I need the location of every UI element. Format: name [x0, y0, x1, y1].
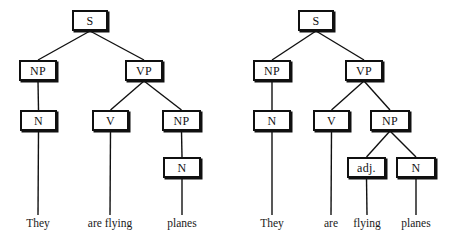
tree-edge-NP2-N2 [182, 131, 183, 157]
tree-edge-VP-V [332, 81, 365, 110]
tree-node-NP-NP2: NP [370, 110, 410, 131]
tree-edge-NP2-ADJ [367, 131, 391, 157]
tree-edge-S-NP1 [272, 31, 316, 60]
tree-edge-V-w-are [331, 131, 332, 215]
tree-node-VP-VP: VP [125, 60, 163, 81]
tree-edge-S-VP [316, 31, 364, 60]
tree-node-label: NP [382, 114, 398, 126]
tree-node-label: N [268, 114, 277, 126]
tree-node-N-N2: N [396, 157, 436, 178]
tree-node-label: NP [30, 64, 46, 76]
tree-node-V-V: V [313, 110, 350, 131]
tree-node-S-S: S [298, 10, 334, 31]
tree-node-NP-NP1: NP [253, 60, 291, 81]
tree-edge-S-NP1 [38, 31, 90, 60]
tree-node-label: adj. [357, 161, 376, 173]
tree-node-label: V [327, 114, 336, 126]
tree-node-VP-VP: VP [345, 60, 383, 81]
tree-edge-NP1-N1 [38, 81, 39, 110]
tree-node-label: NP [174, 114, 190, 126]
tree-terminal-word: They [26, 218, 50, 230]
tree-node-adj-ADJ: adj. [347, 157, 386, 178]
parse-tree-left: SNPVPNVNPN Theyare flyingplanes [0, 0, 227, 238]
tree-node-label: NP [264, 64, 280, 76]
tree-node-label: S [87, 14, 94, 26]
tree-terminal-word: planes [401, 218, 430, 230]
tree-node-NP-NP1: NP [19, 60, 57, 81]
tree-terminal-word: They [260, 218, 284, 230]
tree-edge-S-VP [90, 31, 144, 60]
tree-node-NP-NP2: NP [162, 110, 201, 131]
tree-node-label: N [178, 161, 187, 173]
tree-node-label: N [34, 114, 43, 126]
tree-node-label: VP [136, 64, 152, 76]
tree-node-label: N [412, 161, 421, 173]
tree-edge-VP-NP2 [364, 81, 390, 110]
tree-edge-VP-V [111, 81, 145, 110]
tree-edge-NP2-N2 [390, 131, 416, 157]
tree-terminal-word: planes [167, 218, 196, 230]
tree-node-N-N1: N [253, 110, 291, 131]
tree-node-S-S: S [72, 10, 108, 31]
tree-terminal-word: flying [353, 218, 380, 230]
tree-node-N-N1: N [20, 110, 57, 131]
tree-terminal-word: are [324, 218, 338, 230]
tree-node-label: V [106, 114, 115, 126]
tree-edge-V-w-areflying [110, 131, 111, 215]
tree-edge-ADJ-w-flying [367, 178, 368, 215]
tree-terminal-word: are flying [88, 218, 132, 230]
tree-edge-N1-w-they [38, 131, 39, 215]
tree-node-label: S [313, 14, 320, 26]
parse-tree-figure: SNPVPNVNPN Theyare flyingplanes SNPVPNVN… [0, 0, 453, 238]
tree-node-label: VP [356, 64, 372, 76]
tree-node-N-N2: N [163, 157, 201, 178]
parse-tree-right: SNPVPNVNPadj.N Theyareflyingplanes [226, 0, 453, 238]
tree-edge-VP-NP2 [144, 81, 182, 110]
tree-node-V-V: V [92, 110, 129, 131]
